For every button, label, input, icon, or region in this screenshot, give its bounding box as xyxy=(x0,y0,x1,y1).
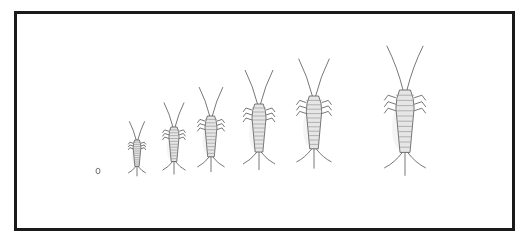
silverfish-stage-3 xyxy=(197,87,224,172)
silverfish-stage-6 xyxy=(384,46,426,176)
silverfish-illustration xyxy=(0,0,525,238)
silverfish-stage-4 xyxy=(243,70,275,170)
silverfish-stage-1 xyxy=(128,121,146,176)
egg-icon xyxy=(96,168,100,174)
silverfish-stage-2 xyxy=(162,103,185,175)
silverfish-stage-5 xyxy=(296,59,331,169)
